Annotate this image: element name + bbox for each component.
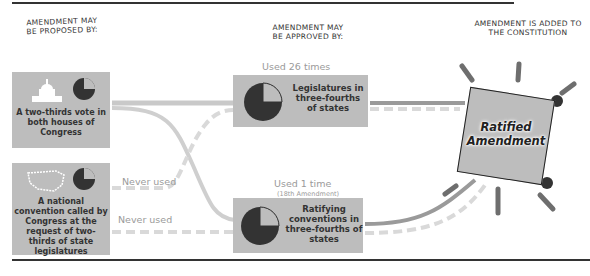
- pie-icon: [72, 77, 96, 101]
- path-conventions-to-ratified: [365, 180, 475, 224]
- proposal-box-convention: A national convention called by Congress…: [12, 163, 110, 255]
- usage-note-conventions: (18th Amendment): [277, 190, 339, 198]
- ratified-text: Ratified Amendment: [466, 120, 546, 148]
- pie-icon: [243, 82, 283, 122]
- pie-icon: [72, 167, 96, 191]
- usage-label-legislatures: Used 26 times: [262, 61, 330, 72]
- proposal-text: A two-thirds vote in both houses of Cong…: [14, 108, 108, 138]
- never-used-label-1: Never used: [122, 176, 176, 187]
- approval-box-conventions: Ratifying conventions in three-fourths o…: [233, 198, 363, 253]
- never-used-label-2: Never used: [118, 214, 172, 225]
- approval-text: Ratifying conventions in three-fourths o…: [285, 204, 363, 244]
- proposal-box-congress: A two-thirds vote in both houses of Cong…: [12, 72, 110, 148]
- proposal-text: A national convention called by Congress…: [14, 197, 108, 257]
- approval-text: Legislatures in three-fourths of states: [291, 83, 365, 113]
- pie-icon: [240, 206, 280, 246]
- us-map-icon: [26, 167, 66, 193]
- capitol-icon: [30, 76, 64, 104]
- approval-box-legislatures: Legislatures in three-fourths of states: [233, 75, 368, 127]
- path-congress-to-conventions: [112, 108, 235, 220]
- usage-label-conventions: Used 1 time: [274, 178, 331, 189]
